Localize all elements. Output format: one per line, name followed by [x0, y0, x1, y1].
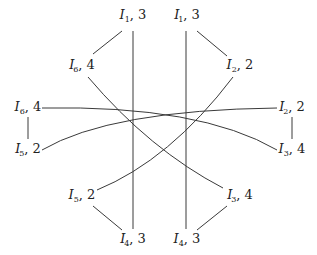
node-weight: 3 [192, 231, 200, 246]
node-I6: I6, 4 [15, 100, 42, 116]
node-weight: 3 [138, 7, 146, 22]
node-weight: 3 [138, 231, 146, 246]
node-weight: 4 [33, 99, 41, 114]
edge-I3p-I4 [197, 206, 227, 230]
node-I2: I2, 2 [227, 58, 254, 74]
node-weight: 2 [33, 141, 41, 156]
node-weight: 4 [87, 57, 95, 72]
node-weight: 4 [297, 141, 305, 156]
node-sep: , [25, 99, 33, 114]
edge-I1-I6p [93, 31, 122, 54]
diagram-edges [0, 0, 317, 255]
edge-I6p-I3p [88, 77, 223, 188]
edge-I6-I3 [42, 108, 277, 150]
edge-I5-I4p [93, 206, 122, 230]
node-I2-prime: I′2, 2 [279, 100, 305, 116]
edge-I2-I5 [97, 77, 233, 190]
node-weight: 2 [87, 187, 95, 202]
node-I1-prime: I′1, 3 [174, 8, 200, 24]
node-weight: 2 [297, 99, 305, 114]
node-sep: , [184, 231, 192, 246]
node-I5: I5, 2 [69, 188, 96, 204]
node-weight: 4 [245, 187, 253, 202]
node-weight: 3 [192, 7, 200, 22]
node-sep: , [237, 57, 245, 72]
node-I3: I3, 4 [279, 142, 306, 158]
node-I6-prime: I′6, 4 [69, 58, 95, 74]
node-I3-prime: I′3, 4 [227, 188, 253, 204]
node-sep: , [130, 7, 138, 22]
node-I1: I1, 3 [120, 8, 147, 24]
node-sep: , [289, 141, 297, 156]
node-I5-prime: I′5, 2 [15, 142, 41, 158]
edge-I1p-I2 [197, 31, 227, 56]
node-sep: , [79, 187, 87, 202]
node-weight: 2 [245, 57, 253, 72]
node-I4-prime: I′4, 3 [120, 232, 146, 248]
node-I4: I4, 3 [174, 232, 201, 248]
